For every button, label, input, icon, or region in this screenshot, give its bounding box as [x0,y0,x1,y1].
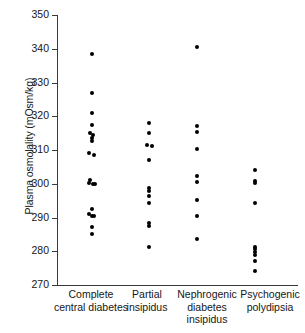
y-axis-tick-label: 290 [31,211,49,223]
y-axis-tick-label: 310 [31,143,49,155]
data-point [253,181,257,185]
data-point [147,189,151,193]
x-axis-line [57,285,298,286]
data-point [253,253,257,257]
data-point [90,139,94,143]
data-point [147,224,151,228]
data-point [147,194,151,198]
data-point [145,143,149,147]
y-axis-tick-label: 320 [31,109,49,121]
y-axis-tick: 330 [52,83,57,84]
plasma-osmolality-scatter-figure: Plasma osmolality (mOsm/kg) 350340330320… [0,0,305,333]
data-point [253,269,257,273]
data-point [147,121,151,125]
data-point [90,225,94,229]
data-point [147,131,151,135]
data-point [90,123,94,127]
y-axis-tick: 270 [52,285,57,286]
x-axis-category-label: Psychogenicpolydipsia [229,288,305,313]
data-point [150,144,154,148]
y-axis-tick: 280 [52,251,57,252]
y-axis-tick-label: 350 [31,8,49,20]
y-axis-tick: 320 [52,116,57,117]
data-point [147,158,151,162]
y-axis-tick-label: 330 [31,76,49,88]
y-axis-tick: 340 [52,49,57,50]
y-axis-tick-label: 340 [31,42,49,54]
y-axis-tick: 290 [52,218,57,219]
x-axis-category-label-line: Psychogenic [229,288,305,301]
data-point [195,174,199,178]
data-point [195,130,199,134]
y-axis-tick: 310 [52,150,57,151]
data-point [93,182,97,186]
data-point [90,111,94,115]
data-point [90,91,94,95]
data-point [92,153,96,157]
y-axis-tick: 350 [52,15,57,16]
y-axis-tick: 300 [52,184,57,185]
data-point [253,201,257,205]
data-point [253,259,257,263]
data-point [195,237,199,241]
data-point [195,45,199,49]
data-point [147,201,151,205]
data-point [195,147,199,151]
data-point [253,168,257,172]
x-axis-category-labels: Completecentral diabetesPartialinsipidus… [57,288,305,333]
x-axis-category-label-line: insipidus [165,313,249,326]
data-point [90,52,94,56]
y-axis-tick-label: 300 [31,177,49,189]
x-axis-category-label-line: polydipsia [229,301,305,314]
data-point [87,151,91,155]
data-point [147,245,151,249]
data-point [92,214,96,218]
data-point [195,180,199,184]
data-point [195,198,199,202]
data-point [90,232,94,236]
data-point [87,181,91,185]
y-axis-tick-label: 270 [31,278,49,290]
y-axis-tick-label: 280 [31,244,49,256]
data-point [195,124,199,128]
data-point [90,207,94,211]
plot-area: 350340330320310300290280270 [57,15,297,285]
y-axis-line [57,15,58,286]
data-point [195,214,199,218]
